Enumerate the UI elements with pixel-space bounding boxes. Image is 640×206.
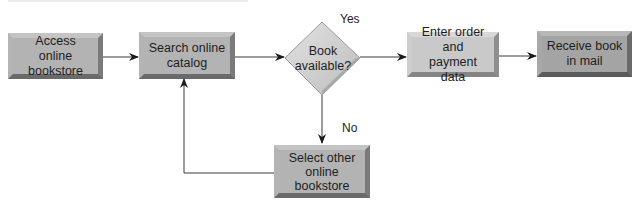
node-text-line: Search online bbox=[149, 41, 225, 56]
node-text-line: catalog bbox=[149, 56, 225, 71]
node-text-line: Select other bbox=[289, 151, 356, 165]
node-enter-order-payment: Enter order and payment data bbox=[407, 32, 499, 77]
node-receive-book-in-mail: Receive book in mail bbox=[537, 31, 632, 77]
node-text-line: Receive book bbox=[547, 39, 623, 54]
node-text-line: bookstore bbox=[17, 64, 94, 79]
node-text-line: Book bbox=[288, 44, 358, 59]
edge-label-yes: Yes bbox=[340, 12, 360, 26]
decision-label: Book available? bbox=[288, 44, 358, 74]
flowchart-diagram: Access online bookstore Search online ca… bbox=[0, 0, 640, 206]
node-text-line: online bbox=[289, 165, 356, 179]
node-text-line: available? bbox=[288, 59, 358, 74]
node-select-other-bookstore: Select other online bookstore bbox=[274, 145, 370, 198]
node-access-online-bookstore: Access online bookstore bbox=[8, 33, 103, 79]
node-search-online-catalog: Search online catalog bbox=[139, 32, 235, 79]
edge-label-no: No bbox=[342, 121, 357, 135]
node-text-line: payment data bbox=[416, 55, 490, 85]
edge-other-to-search bbox=[184, 79, 274, 173]
node-text-line: bookstore bbox=[289, 179, 356, 193]
node-text-line: in mail bbox=[547, 54, 623, 69]
node-text-line: Access online bbox=[17, 34, 94, 64]
node-text-line: Enter order and bbox=[416, 25, 490, 55]
